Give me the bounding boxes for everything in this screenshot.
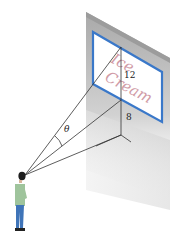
label-height-12: 12 [124, 70, 135, 80]
person-figure [15, 172, 27, 231]
label-gap-8: 8 [126, 112, 132, 122]
angle-arc [55, 136, 62, 146]
billboard-angle-diagram: Ice Cream 12 8 θ [0, 0, 174, 243]
person-head [18, 172, 25, 180]
person-pants [16, 205, 24, 228]
person-shirt [15, 184, 25, 206]
label-theta: θ [64, 124, 70, 134]
